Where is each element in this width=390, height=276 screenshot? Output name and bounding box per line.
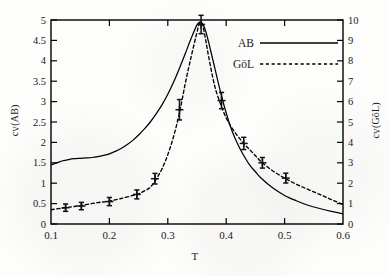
y-tick-label-right: 8: [348, 55, 353, 66]
y-tick-label-right: 6: [348, 96, 353, 107]
y-tick-label-right: 7: [348, 76, 353, 87]
y-tick-label-left: 5: [41, 15, 46, 26]
plot-canvas: 0.10.20.30.40.50.600.511.522.533.544.550…: [0, 0, 390, 276]
y-tick-label-right: 1: [348, 198, 353, 209]
data-point-marker: [151, 173, 159, 184]
y-tick-label-left: 4: [41, 55, 47, 66]
y-tick-label-right: 2: [348, 178, 353, 189]
x-tick-label: 0.3: [161, 229, 175, 241]
y-tick-label-right: 4: [348, 137, 354, 148]
x-tick-label: 0.5: [278, 229, 292, 241]
y-axis-label-left: cV(AB): [9, 74, 22, 166]
figure-container: 0.10.20.30.40.50.600.511.522.533.544.550…: [0, 0, 390, 276]
axis-label-subscript: V: [373, 128, 382, 134]
data-point-marker: [258, 157, 266, 168]
y-tick-label-left: 0.5: [33, 198, 46, 209]
y-tick-label-left: 1.5: [33, 157, 46, 168]
y-tick-label-right: 5: [348, 117, 353, 128]
x-tick-label: 0.4: [219, 229, 233, 241]
data-point-marker: [77, 202, 85, 210]
y-tick-label-right: 3: [348, 157, 353, 168]
x-tick-label: 0.6: [336, 229, 350, 241]
legend-label: AB: [238, 37, 254, 49]
y-tick-label-left: 1: [41, 178, 46, 189]
data-point-marker: [175, 100, 183, 120]
x-axis-label: T: [0, 250, 390, 262]
data-point-marker: [282, 173, 290, 183]
y-tick-label-left: 3: [41, 96, 46, 107]
y-tick-label-left: 2.5: [33, 117, 46, 128]
x-tick-label: 0.1: [44, 229, 58, 241]
data-point-marker: [62, 204, 70, 212]
axis-label-subscript: V: [12, 126, 21, 132]
y-tick-label-right: 9: [348, 35, 353, 46]
y-tick-label-right: 0: [348, 219, 353, 230]
y-tick-label-left: 3.5: [33, 76, 46, 87]
y-tick-label-left: 2: [41, 137, 46, 148]
y-tick-label-left: 4.5: [33, 35, 46, 46]
data-point-marker: [105, 197, 113, 205]
y-tick-label-left: 0: [41, 219, 46, 230]
y-axis-label-right: cV(GōL): [370, 74, 383, 166]
plot-frame: [51, 20, 343, 224]
data-point-marker: [133, 190, 141, 199]
x-tick-label: 0.2: [103, 229, 117, 241]
legend-label: GōL: [233, 58, 254, 70]
series-curve-dashed: [51, 22, 343, 210]
y-tick-label-right: 10: [348, 15, 359, 26]
